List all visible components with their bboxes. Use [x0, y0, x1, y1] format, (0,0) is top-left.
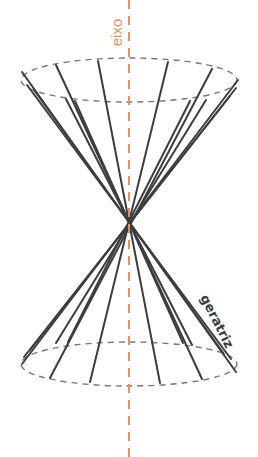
double-cone-diagram: eixo geratriz	[0, 0, 258, 457]
axis-label: eixo	[108, 19, 125, 47]
bottom-base-ellipse	[21, 342, 237, 386]
cone-drawing	[0, 0, 258, 457]
generatrix-lines	[22, 61, 238, 383]
